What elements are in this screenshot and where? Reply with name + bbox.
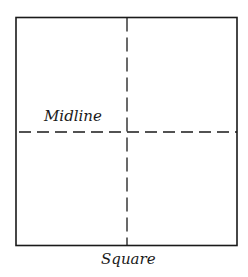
square-caption: Square: [101, 250, 156, 268]
square-diagram: Midline Square: [0, 0, 248, 277]
midline-label: Midline: [43, 107, 102, 125]
